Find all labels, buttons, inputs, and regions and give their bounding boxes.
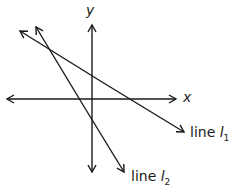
- line-word: line: [131, 168, 156, 184]
- x-axis-label: x: [183, 89, 191, 105]
- line-word: line: [190, 124, 215, 140]
- y-axis-label: y: [86, 2, 94, 18]
- line-l1-label: line l1: [190, 124, 229, 140]
- line-l1: [20, 31, 102, 82]
- line-subscript: 2: [165, 177, 171, 187]
- coordinate-diagram: [0, 0, 236, 194]
- line-subscript: 1: [224, 133, 230, 143]
- line-l2-label: line l2: [131, 168, 170, 184]
